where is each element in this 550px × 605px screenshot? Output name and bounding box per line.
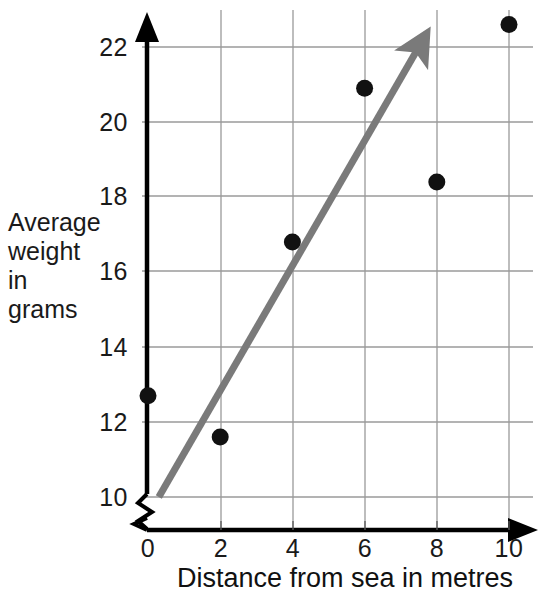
- x-tick-label-4: 4: [273, 534, 313, 563]
- y-axis-title-line-3: in: [8, 266, 118, 295]
- x-tick-label-2: 2: [201, 534, 241, 563]
- x-axis-title: Distance from sea in metres: [150, 563, 540, 594]
- data-point: [140, 387, 157, 404]
- x-tick-label-6: 6: [345, 534, 385, 563]
- data-point: [428, 174, 445, 191]
- y-tick-label-20: 20: [68, 108, 128, 137]
- y-tick-label-22: 22: [68, 33, 128, 62]
- y-tick-label-18: 18: [68, 182, 128, 211]
- y-tick-label-10: 10: [68, 483, 128, 512]
- y-axis-title: Average weight in grams: [8, 208, 118, 324]
- x-tick-label-8: 8: [417, 534, 457, 563]
- data-point: [212, 429, 229, 446]
- y-axis: [138, 30, 152, 529]
- data-point: [284, 234, 301, 251]
- data-point: [501, 16, 518, 33]
- x-tick-label-10: 10: [489, 534, 529, 563]
- x-tick-label-0: 0: [128, 534, 168, 563]
- data-point: [356, 80, 373, 97]
- y-axis-title-line-1: Average: [8, 208, 118, 237]
- trend-line: [159, 47, 419, 497]
- y-tick-label-14: 14: [68, 333, 128, 362]
- y-axis-arrowhead: [135, 12, 159, 42]
- data-points: [140, 16, 518, 446]
- y-axis-title-line-2: weight: [8, 237, 118, 266]
- x-axis: [134, 518, 527, 530]
- scatter-chart: 22 20 18 16 14 12 10 0 2 4 6 8 10 Averag…: [0, 0, 550, 605]
- y-axis-title-line-4: grams: [8, 295, 118, 324]
- y-tick-label-12: 12: [68, 408, 128, 437]
